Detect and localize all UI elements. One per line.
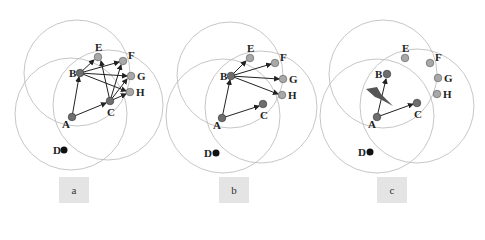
- panel-b: A B C D E F G H: [166, 22, 317, 173]
- panel-label-text: b: [231, 184, 237, 196]
- label-b: B: [69, 67, 77, 79]
- node-g: [434, 74, 442, 82]
- label-g: G: [289, 73, 298, 85]
- node-e: [246, 54, 254, 62]
- node-h: [126, 88, 134, 96]
- edge-c-f: [110, 65, 121, 101]
- label-g: G: [444, 72, 453, 84]
- label-c: C: [107, 106, 115, 118]
- node-g: [127, 72, 135, 80]
- edge-c-e: [101, 61, 110, 101]
- label-a: A: [368, 118, 376, 130]
- label-d: D: [53, 144, 61, 156]
- edge-a-b: [72, 77, 79, 117]
- node-c: [106, 97, 114, 105]
- node-b: [227, 72, 235, 80]
- panel-label-text: c: [390, 184, 395, 196]
- panel-c: A B C D E F G H: [320, 20, 474, 173]
- label-f: F: [280, 51, 287, 63]
- node-h: [433, 90, 441, 98]
- label-a: A: [62, 118, 70, 130]
- node-e: [401, 54, 409, 62]
- label-c: C: [260, 109, 268, 121]
- node-h: [278, 91, 286, 99]
- label-f: F: [128, 49, 135, 61]
- node-f: [426, 59, 434, 67]
- label-e: E: [247, 42, 254, 54]
- panel-label-a: a: [59, 177, 89, 203]
- panel-a: A B C D E F G H: [15, 20, 163, 170]
- panel-label-c: c: [377, 177, 407, 203]
- panel-label-b: b: [219, 177, 249, 203]
- edge-a-c: [72, 103, 106, 117]
- label-h: H: [288, 89, 297, 101]
- label-g: G: [137, 70, 146, 82]
- lightning-bolt-icon: [366, 87, 393, 106]
- label-e: E: [402, 42, 409, 54]
- node-f: [271, 59, 279, 67]
- label-d: D: [358, 146, 366, 158]
- node-e: [94, 53, 102, 61]
- node-c: [259, 100, 267, 108]
- label-h: H: [443, 88, 452, 100]
- node-d: [213, 150, 220, 157]
- node-d: [367, 149, 374, 156]
- label-b: B: [220, 70, 228, 82]
- panel-label-text: a: [72, 184, 77, 196]
- label-a: A: [213, 119, 221, 131]
- label-h: H: [136, 86, 145, 98]
- node-f: [119, 57, 127, 65]
- label-c: C: [414, 108, 422, 120]
- edge-a-b: [222, 80, 230, 118]
- node-c: [413, 99, 421, 107]
- edge-a-c: [377, 104, 413, 117]
- label-d: D: [204, 147, 212, 159]
- node-g: [279, 75, 287, 83]
- edges: [72, 60, 127, 117]
- label-f: F: [435, 51, 442, 63]
- label-e: E: [95, 41, 102, 53]
- node-b: [76, 69, 84, 77]
- node-b: [383, 70, 391, 78]
- edge-a-c: [222, 106, 259, 118]
- node-d: [61, 147, 68, 154]
- label-b: B: [375, 68, 383, 80]
